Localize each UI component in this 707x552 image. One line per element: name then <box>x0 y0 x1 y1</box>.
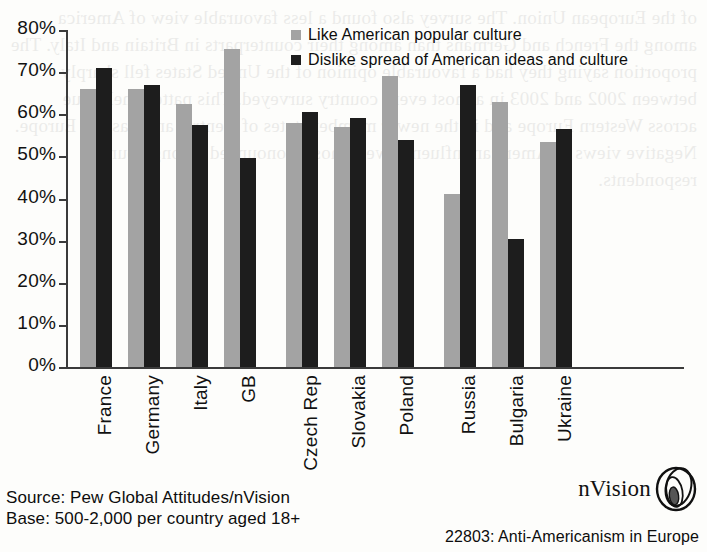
y-axis-tick <box>59 114 66 116</box>
bar-poland-series-2 <box>398 140 414 367</box>
legend-item: Like American popular culture <box>291 24 628 46</box>
bar-bulgaria-series-2 <box>508 239 524 367</box>
bar-russia-series-2 <box>460 85 476 367</box>
category-label-france: France <box>94 375 116 435</box>
y-axis-tick-label: 30% <box>17 227 56 249</box>
bar-italy-series-2 <box>192 125 208 367</box>
y-axis-tick <box>59 283 66 285</box>
category-label-czech-rep: Czech Rep <box>300 375 322 471</box>
base-line: Base: 500-2,000 per country aged 18+ <box>6 508 300 529</box>
bar-slovakia-series-1 <box>334 127 350 367</box>
bar-germany-series-2 <box>144 85 160 367</box>
bar-poland-series-1 <box>382 76 398 367</box>
bar-ukraine-series-2 <box>556 129 572 367</box>
source-line: Source: Pew Global Attitudes/nVision <box>6 487 300 508</box>
bar-russia-series-1 <box>444 194 460 367</box>
bar-france-series-1 <box>80 89 96 367</box>
bar-gb-series-2 <box>240 158 256 367</box>
category-label-gb: GB <box>238 375 260 403</box>
brand-logo: nVision <box>578 466 697 512</box>
bar-czech-rep-series-2 <box>302 112 318 367</box>
bar-gb-series-1 <box>224 49 240 367</box>
bar-slovakia-series-2 <box>350 118 366 367</box>
nvision-swirl-icon <box>655 466 697 512</box>
brand-name: nVision <box>578 476 651 502</box>
plot-area: 80%70%60%50%40%30%20%10%0% <box>66 30 684 369</box>
bar-czech-rep-series-1 <box>286 123 302 367</box>
y-axis-tick-label: 70% <box>17 59 56 81</box>
y-axis-tick-label: 40% <box>17 185 56 207</box>
y-axis-tick <box>59 241 66 243</box>
legend-swatch-icon <box>291 30 301 40</box>
legend-swatch-icon <box>291 55 301 65</box>
bar-germany-series-1 <box>128 89 144 367</box>
legend-label: Dislike spread of American ideas and cul… <box>308 51 628 69</box>
bar-ukraine-series-1 <box>540 142 556 367</box>
y-axis-tick <box>59 199 66 201</box>
bar-chart: 80%70%60%50%40%30%20%10%0% FranceGermany… <box>0 0 707 552</box>
y-axis-tick-label: 80% <box>17 17 56 39</box>
y-axis-tick <box>59 156 66 158</box>
bar-bulgaria-series-1 <box>492 102 508 367</box>
y-axis-tick-label: 10% <box>17 312 56 334</box>
category-label-poland: Poland <box>396 375 418 435</box>
category-label-germany: Germany <box>142 375 164 455</box>
category-label-slovakia: Slovakia <box>348 375 370 448</box>
category-label-ukraine: Ukraine <box>554 375 576 442</box>
y-axis-tick-label: 50% <box>17 143 56 165</box>
report-reference: 22803: Anti-Americanism in Europe <box>445 528 699 546</box>
y-axis-tick <box>59 367 66 369</box>
category-label-italy: Italy <box>190 375 212 411</box>
category-label-russia: Russia <box>458 375 480 434</box>
y-axis-tick-label: 0% <box>28 354 56 376</box>
bar-france-series-2 <box>96 68 112 367</box>
bars-layer <box>66 30 684 369</box>
y-axis-tick <box>59 72 66 74</box>
source-note: Source: Pew Global Attitudes/nVision Bas… <box>6 487 300 529</box>
x-axis-category-labels: FranceGermanyItalyGBCzech RepSlovakiaPol… <box>66 371 684 479</box>
y-axis-tick <box>59 325 66 327</box>
category-label-bulgaria: Bulgaria <box>506 375 528 446</box>
y-axis-tick <box>59 30 66 32</box>
bar-italy-series-1 <box>176 104 192 367</box>
y-axis-tick-label: 60% <box>17 101 56 123</box>
legend-label: Like American popular culture <box>308 26 522 44</box>
chart-legend: Like American popular cultureDislike spr… <box>291 24 628 74</box>
y-axis-tick-label: 20% <box>17 270 56 292</box>
legend-item: Dislike spread of American ideas and cul… <box>291 49 628 71</box>
